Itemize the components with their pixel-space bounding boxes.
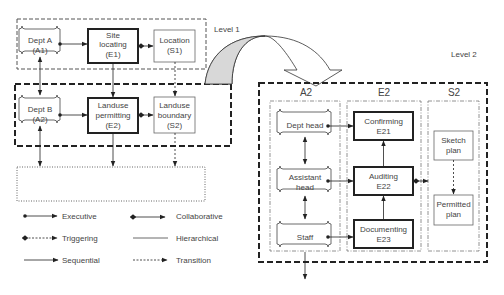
- svg-text:Dept head: Dept head: [287, 121, 324, 130]
- node-permitted-plan[interactable]: Permitted plan: [434, 195, 473, 225]
- svg-text:(E2): (E2): [105, 121, 120, 130]
- node-sketch-plan[interactable]: Sketch plan: [434, 131, 473, 160]
- node-documenting[interactable]: Documenting E23: [354, 220, 413, 248]
- svg-text:plan: plan: [446, 146, 461, 155]
- svg-text:Triggering: Triggering: [62, 234, 98, 243]
- diagram-canvas: Level 1 Dept A (A1) Site locating (E1) L…: [0, 0, 504, 295]
- node-confirming[interactable]: Confirming E21: [354, 112, 413, 140]
- legend-transition: Transition: [133, 256, 211, 265]
- svg-text:locating: locating: [99, 40, 127, 49]
- node-landuse-boundary[interactable]: Landuse boundary (S2): [154, 97, 195, 133]
- column-header-a2: A2: [300, 87, 313, 98]
- svg-text:E22: E22: [376, 182, 391, 191]
- svg-text:Site: Site: [106, 31, 120, 40]
- svg-text:E21: E21: [376, 127, 391, 136]
- legend-sequential: Sequential: [24, 256, 100, 265]
- node-staff[interactable]: Staff: [277, 221, 331, 247]
- node-site-locating[interactable]: Site locating (E1): [88, 29, 138, 63]
- svg-text:head: head: [296, 183, 314, 192]
- column-header-s2: S2: [448, 87, 461, 98]
- zoom-in-arrow: [205, 36, 342, 86]
- svg-text:Location: Location: [159, 36, 189, 45]
- svg-text:Staff: Staff: [297, 233, 314, 242]
- svg-text:Confirming: Confirming: [364, 117, 403, 126]
- svg-text:(S2): (S2): [167, 121, 182, 130]
- legend-executive: Executive: [25, 212, 97, 221]
- svg-text:Executive: Executive: [62, 212, 97, 221]
- legend: Executive Collaborative Triggering Hiera…: [24, 212, 223, 265]
- svg-text:Assistant: Assistant: [289, 173, 322, 182]
- node-dept-head[interactable]: Dept head: [277, 109, 331, 135]
- column-header-e2: E2: [378, 87, 391, 98]
- node-dept-b[interactable]: Dept B (A2): [19, 95, 60, 124]
- svg-text:Landuse: Landuse: [159, 101, 190, 110]
- svg-text:(E1): (E1): [105, 50, 120, 59]
- svg-text:boundary: boundary: [158, 111, 191, 120]
- legend-collaborative: Collaborative: [133, 212, 223, 221]
- output-box: [17, 167, 205, 201]
- level2-connectors: [305, 126, 454, 279]
- legend-triggering: Triggering: [25, 234, 98, 243]
- svg-text:Permitted: Permitted: [436, 200, 470, 209]
- svg-text:permitting: permitting: [95, 111, 130, 120]
- svg-text:Documenting: Documenting: [360, 225, 407, 234]
- svg-text:Collaborative: Collaborative: [176, 212, 223, 221]
- legend-hierarchical: Hierarchical: [133, 234, 218, 243]
- svg-text:Transition: Transition: [176, 256, 211, 265]
- level1-label: Level 1: [214, 25, 240, 34]
- node-dept-a[interactable]: Dept A (A1): [19, 26, 60, 55]
- svg-text:Dept B: Dept B: [28, 105, 52, 114]
- svg-text:Auditing: Auditing: [369, 172, 398, 181]
- svg-text:Sequential: Sequential: [62, 256, 100, 265]
- node-auditing[interactable]: Auditing E22: [354, 167, 413, 195]
- svg-text:Landuse: Landuse: [98, 101, 129, 110]
- node-assistant-head[interactable]: Assistant head: [277, 166, 331, 192]
- level2-label: Level 2: [451, 50, 477, 59]
- svg-text:(S1): (S1): [167, 46, 182, 55]
- svg-text:Hierarchical: Hierarchical: [176, 234, 218, 243]
- node-location[interactable]: Location (S1): [154, 30, 195, 62]
- svg-text:plan: plan: [446, 210, 461, 219]
- svg-text:Dept A: Dept A: [28, 36, 53, 45]
- svg-text:(A2): (A2): [32, 115, 47, 124]
- svg-text:Sketch: Sketch: [441, 136, 465, 145]
- node-landuse-permitting[interactable]: Landuse permitting (E2): [88, 98, 138, 133]
- svg-text:(A1): (A1): [32, 46, 47, 55]
- svg-text:E23: E23: [376, 235, 391, 244]
